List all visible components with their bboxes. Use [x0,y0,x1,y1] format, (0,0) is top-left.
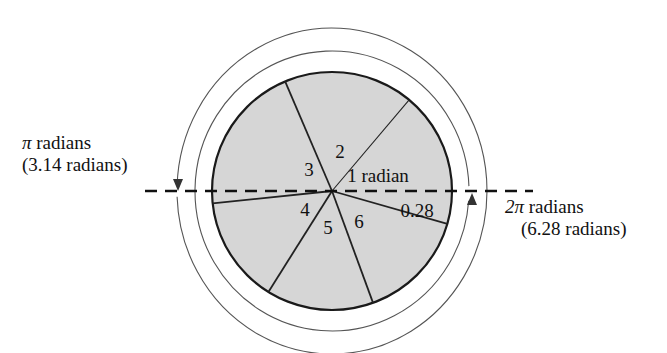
two-pi-radians-annotation: 2π radians (6.28 radians) [505,196,627,241]
two-pi-radians-decimal: (6.28 radians) [505,218,627,240]
sector-1-label: 1 radian [347,165,409,187]
two-pi-arc-arrowhead-icon [467,193,477,205]
sector-4-label: 4 [300,199,310,221]
pi-radians-line: π radians [22,132,128,154]
pi-arc-arrowhead-icon [173,179,183,191]
sector-2-label: 2 [335,141,345,163]
pi-radians-annotation: π radians (3.14 radians) [22,132,128,177]
two-pi-radians-text: radians [524,196,584,217]
two-pi-radians-line: 2π radians [505,196,627,218]
sector-6-label: 6 [354,211,364,233]
pi-radians-decimal: (3.14 radians) [22,154,128,176]
sector-3-label: 3 [304,159,314,181]
sector-7-label: 0.28 [400,200,433,222]
sector-5-label: 5 [323,217,333,239]
pi-radians-text: radians [32,132,92,153]
pi-symbol: π [22,132,32,153]
two-pi-symbol: 2π [505,196,524,217]
